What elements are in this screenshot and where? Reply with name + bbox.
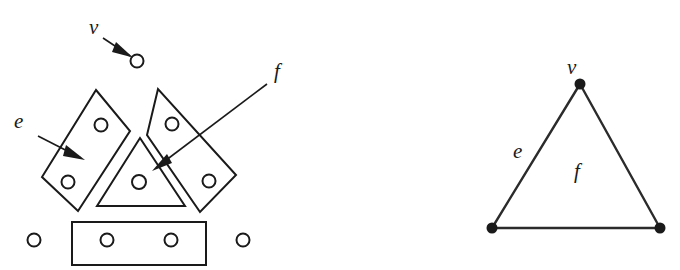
vertex-edge-left-lower xyxy=(62,176,75,189)
triangle-apex-dot xyxy=(575,79,586,90)
left-panel-group: v e f xyxy=(14,15,283,265)
annotation-e: e xyxy=(14,109,85,160)
vertex-edge-right-lower xyxy=(203,175,216,188)
vertex-edge-right-upper xyxy=(166,118,179,131)
annotation-v: v xyxy=(89,15,133,58)
label-e-right: e xyxy=(513,139,522,163)
label-v-right: v xyxy=(567,55,577,79)
figure-container: v e f v e f xyxy=(0,0,680,270)
vertex-edge-left-upper xyxy=(95,119,108,132)
arrow-head-e xyxy=(63,145,85,160)
triangle-edge-right xyxy=(580,84,660,228)
vertex-bottom-inner-right xyxy=(165,234,178,247)
label-f-right: f xyxy=(574,159,583,183)
vertex-face-center xyxy=(132,175,146,189)
vertex-top xyxy=(131,55,144,68)
label-f-left: f xyxy=(274,59,283,83)
edge-cell-left xyxy=(42,90,130,211)
edge-cell-bottom xyxy=(72,222,206,265)
right-panel-group: v e f xyxy=(487,55,666,234)
triangle-bottom-right-dot xyxy=(655,223,666,234)
figure-svg: v e f v e f xyxy=(0,0,680,270)
label-e-left: e xyxy=(14,109,23,133)
vertex-bottom-outer-left xyxy=(28,234,41,247)
vertex-bottom-outer-right xyxy=(237,234,250,247)
triangle-edge-left xyxy=(492,84,580,228)
vertex-bottom-inner-left xyxy=(101,234,114,247)
edge-cell-right xyxy=(147,89,236,212)
triangle-bottom-left-dot xyxy=(487,223,498,234)
arrow-head-v xyxy=(112,42,133,58)
label-v-left: v xyxy=(89,15,99,39)
